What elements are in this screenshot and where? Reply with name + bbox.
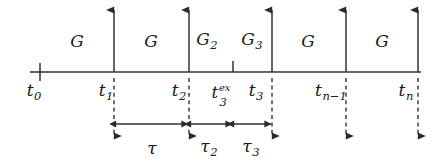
- duration-label-tau: τ: [147, 140, 156, 157]
- tick-label-t3: t3: [249, 82, 264, 102]
- interval-label-g-3: G2: [196, 31, 217, 51]
- timeline-diagram: GGG2G3GGt0t1t2tex3t3tn−1tnττ2τ3: [0, 0, 443, 166]
- duration-label-tau-3: τ3: [242, 138, 259, 158]
- tick-marks-group: [40, 10, 418, 136]
- interval-label-g-4: G3: [241, 31, 262, 51]
- tick-label-t2: t2: [172, 82, 187, 102]
- tick-label-t1: t1: [99, 82, 114, 102]
- tick-label-t3ex: tex3: [212, 84, 219, 101]
- interval-label-g-5: G: [301, 33, 315, 50]
- interval-label-g-6: G: [375, 33, 389, 50]
- interval-label-g-1: G: [70, 33, 84, 50]
- tick-label-t0: t0: [27, 82, 42, 102]
- tick-label-tn: tn: [399, 82, 414, 102]
- duration-label-tau-2: τ2: [200, 138, 217, 158]
- tick-label-tn1: tn−1: [315, 82, 347, 102]
- interval-label-g-2: G: [144, 33, 158, 50]
